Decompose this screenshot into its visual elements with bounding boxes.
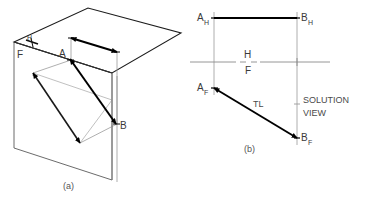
- label-fold-f-pictorial: F: [17, 49, 23, 60]
- caption-a: (a): [63, 181, 74, 191]
- segment-ab-true-pictorial: [70, 59, 116, 124]
- label-fold-f-solution: F: [245, 65, 251, 76]
- projector-ah-to-af: [33, 60, 71, 73]
- label-af-solution: A: [197, 82, 204, 93]
- label-point-a-pictorial: A: [59, 48, 66, 59]
- label-solution-view-line1: SOLUTION: [303, 95, 349, 105]
- label-fold-h-solution: H: [244, 49, 251, 60]
- label-ah-solution: A: [197, 12, 204, 23]
- projector-bh-to-bf: [80, 124, 117, 143]
- label-fold-h-pictorial: H: [27, 34, 32, 41]
- caption-b: (b): [244, 144, 255, 154]
- label-bf-subscript: F: [308, 139, 312, 146]
- panel-a-pictorial: A B H F (a): [14, 8, 181, 191]
- segment-af-bf-pictorial: [33, 73, 80, 143]
- label-bh-subscript: H: [308, 19, 313, 26]
- label-true-length: TL: [253, 99, 264, 109]
- panel-b-solution: A H B H A F B F H F TL SOLUTION VIEW (b): [190, 12, 349, 154]
- label-ah-subscript: H: [204, 19, 209, 26]
- label-bf-solution: B: [301, 132, 308, 143]
- segment-af-bf-solution: [214, 88, 297, 138]
- label-bh-solution: B: [301, 12, 308, 23]
- figure-container: A B H F (a): [0, 0, 366, 202]
- projector-parallel-lower: [80, 100, 112, 143]
- label-solution-view-line2: VIEW: [303, 108, 327, 118]
- technical-drawing-canvas: A B H F (a): [0, 0, 366, 202]
- label-point-b-pictorial: B: [120, 120, 127, 131]
- label-af-subscript: F: [204, 89, 208, 96]
- segment-ah-bh-pictorial: [71, 38, 117, 52]
- projector-parallel-upper: [33, 73, 112, 100]
- horizontal-plane: [14, 8, 181, 73]
